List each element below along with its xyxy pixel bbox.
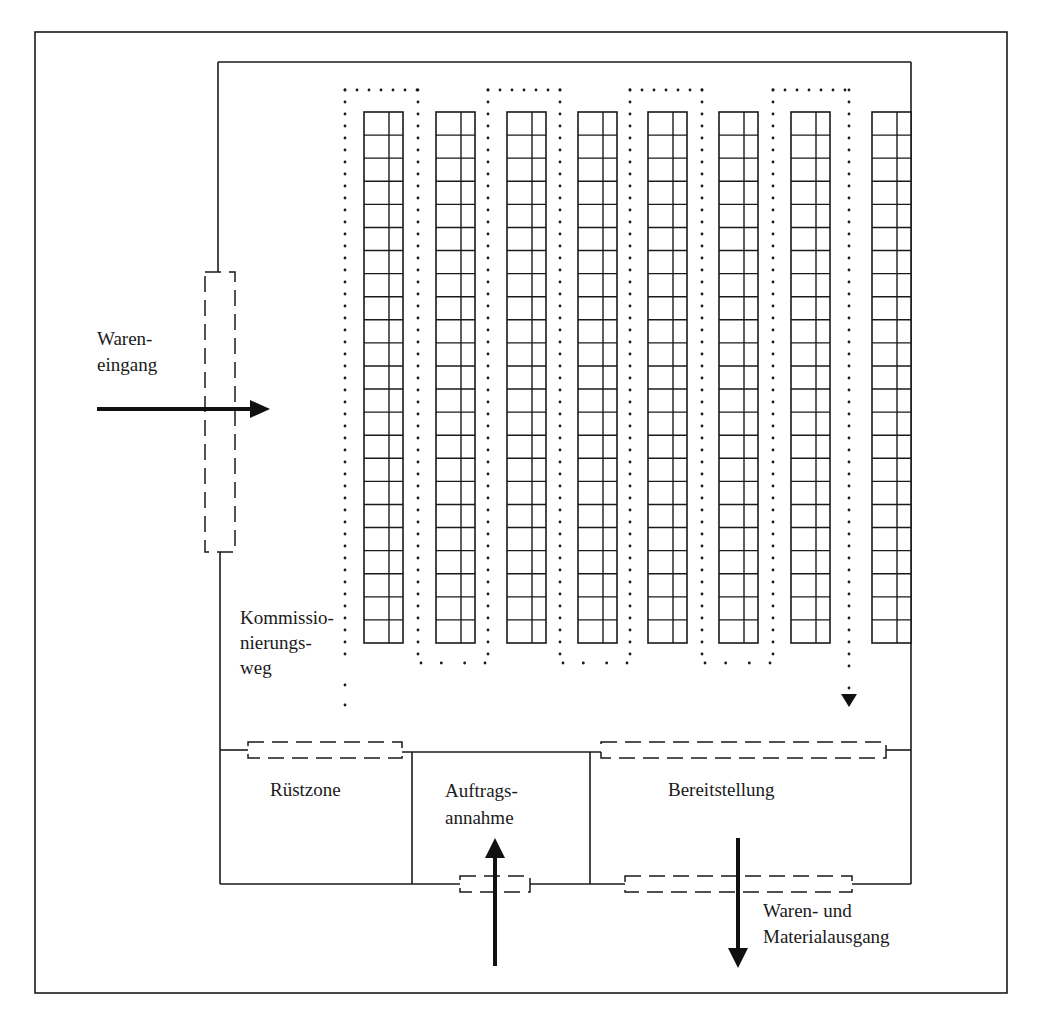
rack-6 — [719, 112, 758, 643]
rack-1 — [364, 112, 403, 643]
door-wareneingang — [205, 272, 235, 552]
rack-2 — [436, 112, 475, 643]
warehouse-layout-diagram — [0, 0, 1043, 1022]
arrow-picking-path-end — [841, 694, 857, 707]
rack-5 — [648, 112, 687, 643]
arrow-auftragsannahme — [485, 838, 505, 966]
door-ruestzone — [248, 742, 402, 758]
arrow-wareneingang — [97, 400, 270, 418]
rack-4 — [578, 112, 617, 643]
label-bereitstellung: Bereitstellung — [668, 777, 775, 803]
door-bereitstellung — [601, 742, 886, 758]
label-ruestzone: Rüstzone — [270, 777, 341, 803]
label-warenausgang: Waren- und Materialausgang — [763, 898, 890, 950]
rack-8 — [872, 112, 911, 643]
storage-racks — [364, 112, 911, 643]
label-kommissionierungsweg: Kommissio- nierungs- weg — [240, 605, 334, 680]
label-wareneingang: Waren- eingang — [97, 326, 157, 378]
rack-7 — [791, 112, 830, 643]
rack-3 — [507, 112, 546, 643]
arrow-warenausgang — [728, 838, 748, 968]
label-auftragsannahme: Auftrags- annahme — [445, 777, 518, 831]
